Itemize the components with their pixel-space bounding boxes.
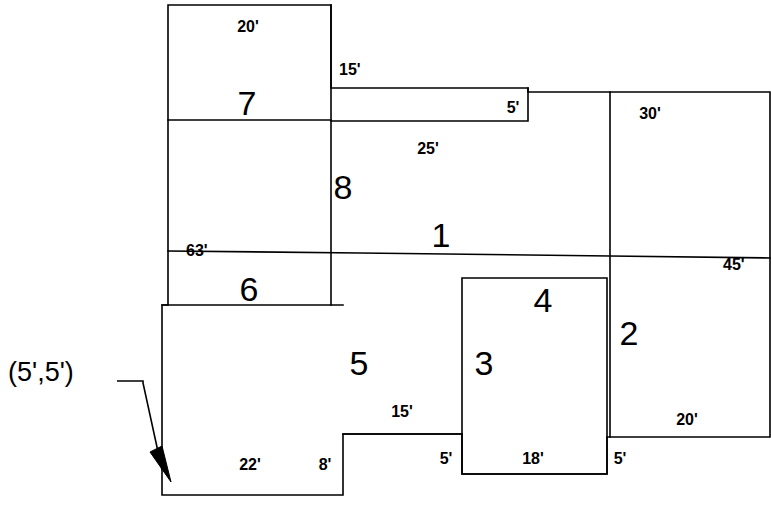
dimension-label-20-bottom-right: 20': [676, 411, 698, 428]
dimension-label-30-top-right: 30': [639, 105, 661, 122]
dimension-label-5-bottom-mid: 5': [440, 450, 453, 467]
dimension-label-45-right: 45': [723, 256, 745, 273]
dimension-label-15-bottom-mid: 15': [391, 403, 413, 420]
zone-label-2: 2: [620, 314, 639, 352]
zone-label-6: 6: [240, 270, 259, 308]
zone-label-5: 5: [350, 344, 369, 382]
dimension-label-63-left: 63': [186, 242, 208, 259]
wall-zone1-bottom: [168, 251, 770, 258]
dimension-label-15-zone7-right: 15': [339, 61, 361, 78]
dimension-label-20-top: 20': [237, 18, 259, 35]
dimension-label-5-bottom-right: 5': [614, 450, 627, 467]
dimension-label-5-top-step: 5': [507, 99, 520, 116]
zone-label-1: 1: [432, 216, 451, 254]
dimension-label-22-bottom-left: 22': [239, 456, 261, 473]
zone-label-3: 3: [475, 344, 494, 382]
wall-top-step: [331, 88, 528, 121]
zone-label-8: 8: [334, 168, 353, 206]
dimension-label-25-zone1: 25': [417, 140, 439, 157]
origin-coordinate-label: (5',5'): [8, 357, 74, 387]
origin-arrowhead-icon: [150, 446, 171, 482]
dimension-label-8-bottom-left: 8': [319, 456, 332, 473]
zone-label-4: 4: [534, 281, 553, 319]
floor-plan-diagram: (5',5') 7 8 1 6 5 4 3 2 20' 15' 5' 30' 2…: [0, 0, 771, 506]
zone-label-7: 7: [238, 84, 257, 122]
dimension-label-18-bottom: 18': [522, 450, 544, 467]
floor-plan-svg: (5',5') 7 8 1 6 5 4 3 2 20' 15' 5' 30' 2…: [0, 0, 771, 506]
